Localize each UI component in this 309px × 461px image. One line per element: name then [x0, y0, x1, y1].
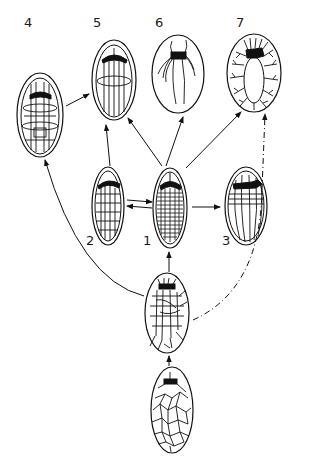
cell-stage-B — [151, 367, 193, 453]
cell-development-diagram: 4 5 6 7 2 1 3 — [0, 0, 309, 461]
arrow-1-to-5 — [128, 118, 162, 166]
transition-arrows — [45, 94, 265, 366]
arrow-4-to-5 — [66, 94, 89, 106]
cell-stage-7 — [227, 34, 281, 112]
cell-stage-5 — [92, 40, 136, 120]
stage-label-1: 1 — [143, 233, 151, 248]
stage-label-5: 5 — [93, 15, 101, 30]
cell-stage-A — [145, 273, 189, 353]
stage-label-7: 7 — [236, 15, 244, 30]
cell-stage-2 — [92, 167, 124, 245]
arrow-2-to-1 — [127, 200, 152, 202]
stage-label-3: 3 — [222, 233, 230, 248]
arrow-1-to-2 — [127, 206, 152, 208]
stage-label-6: 6 — [155, 15, 163, 30]
cell-stage-1 — [153, 168, 187, 248]
stage-label-4: 4 — [24, 15, 32, 30]
arrow-1-to-7 — [186, 112, 241, 168]
stage-label-2: 2 — [86, 233, 94, 248]
arrow-1-to-6 — [166, 117, 183, 166]
arrow-2-to-5 — [106, 125, 110, 166]
cell-stage-3 — [225, 167, 267, 245]
cell-stage-6 — [152, 35, 204, 113]
cell-stage-4 — [17, 73, 63, 157]
